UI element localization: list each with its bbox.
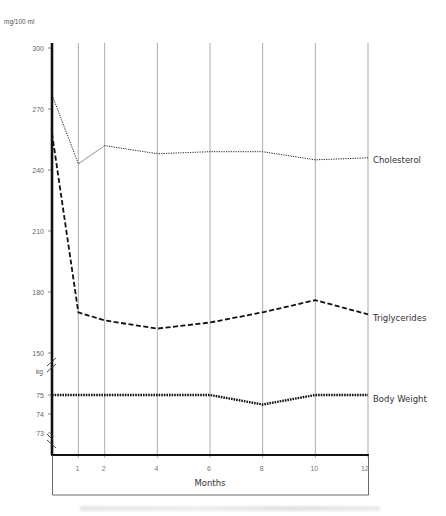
x-axis-tick-labels: 124681012 bbox=[75, 465, 369, 472]
y-tick-label: 74 bbox=[36, 411, 44, 418]
triglycerides-label: Triglycerides bbox=[372, 313, 427, 323]
y-tick-label: 210 bbox=[32, 228, 44, 235]
y-axis-unit-mg: mg/100 ml bbox=[4, 18, 35, 26]
line-chart: mg/100 ml 300270240210180150757473 kg 12… bbox=[0, 0, 446, 516]
y-tick-label: 73 bbox=[36, 430, 44, 437]
body-weight-label: Body Weight bbox=[373, 394, 427, 404]
x-tick-label: 2 bbox=[102, 465, 106, 472]
figure-caption-illegible bbox=[80, 506, 380, 511]
y-tick-label: 150 bbox=[32, 350, 44, 357]
x-axis-title: Months bbox=[194, 478, 226, 488]
y-axis-unit-kg: kg bbox=[36, 368, 43, 376]
y-tick-label: 180 bbox=[32, 289, 44, 296]
x-tick-label: 8 bbox=[260, 465, 264, 472]
y-tick-label: 75 bbox=[36, 392, 44, 399]
x-tick-label: 10 bbox=[310, 465, 318, 472]
x-axis-box bbox=[53, 455, 369, 495]
y-tick-label: 300 bbox=[32, 45, 44, 52]
y-tick-label: 240 bbox=[32, 167, 44, 174]
x-tick-label: 4 bbox=[154, 465, 158, 472]
x-tick-label: 6 bbox=[207, 465, 211, 472]
x-tick-label: 1 bbox=[75, 465, 79, 472]
y-tick-label: 270 bbox=[32, 106, 44, 113]
cholesterol-label: Cholesterol bbox=[373, 155, 421, 165]
y-axis-ticks: 300270240210180150757473 bbox=[32, 45, 52, 437]
x-tick-label: 12 bbox=[361, 465, 369, 472]
